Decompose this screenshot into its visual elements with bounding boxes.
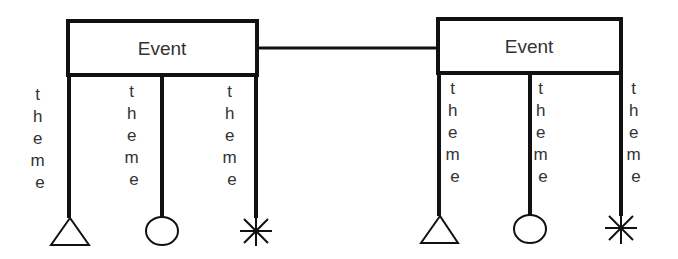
- theme-branch-circle: t h e m e: [125, 75, 178, 245]
- circle-icon: [146, 217, 178, 245]
- event-node-right: Event t h e m e t h e m e: [421, 19, 645, 244]
- event-node-left: Event t h e m e t h e m e: [31, 21, 272, 246]
- asterisk-icon: [605, 213, 637, 244]
- event-label: Event: [505, 36, 554, 57]
- circle-icon: [514, 215, 546, 243]
- theme-label: t h e m e: [31, 85, 50, 192]
- theme-label: t h e m e: [125, 82, 144, 189]
- theme-label: t h e m e: [627, 79, 646, 186]
- theme-branch-asterisk: t h e m e: [223, 75, 272, 246]
- theme-branch-triangle: t h e m e: [421, 73, 464, 243]
- triangle-icon: [51, 218, 89, 245]
- theme-branch-circle: t h e m e: [514, 73, 552, 243]
- theme-label: t h e m e: [534, 79, 553, 186]
- theme-label: t h e m e: [223, 82, 242, 189]
- event-theme-diagram: Event t h e m e t h e m e: [0, 0, 678, 259]
- asterisk-icon: [240, 215, 272, 246]
- theme-branch-triangle: t h e m e: [31, 75, 89, 245]
- triangle-icon: [421, 216, 458, 243]
- theme-branch-asterisk: t h e m e: [605, 73, 645, 244]
- event-label: Event: [138, 38, 187, 59]
- theme-label: t h e m e: [446, 79, 465, 186]
